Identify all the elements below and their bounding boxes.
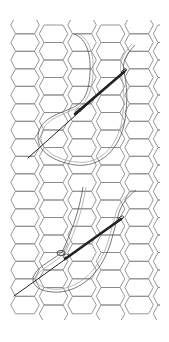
lower-thread-loop-2 [36,187,133,289]
upper-needle-shaft [75,72,124,114]
lower-stitch [14,187,136,296]
upper-thread-loop-left-2 [41,33,132,162]
upper-stitch [28,33,135,165]
stitch-illustration [0,0,169,342]
